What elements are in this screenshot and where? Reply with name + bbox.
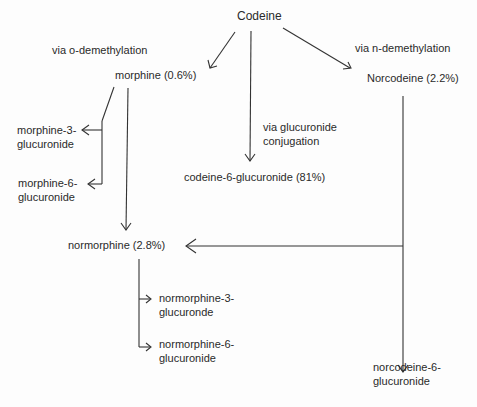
edge-label-glucuronide-conjugation-line2: conjugation: [263, 134, 337, 148]
edge-label-n-demethylation: via n-demethylation: [355, 41, 450, 55]
node-morphine-3-glucuronide-line2: glucuronide: [17, 137, 76, 151]
node-morphine: morphine (0.6%): [115, 68, 196, 82]
node-codeine: Codeine: [237, 9, 282, 23]
edge-morphine-normorphine: [121, 88, 131, 230]
edge-label-glucuronide-conjugation: via glucuronide conjugation: [263, 120, 337, 148]
node-morphine-6-glucuronide: morphine-6- glucuronide: [18, 176, 77, 204]
node-normorphine: normorphine (2.8%): [68, 238, 165, 252]
node-normorphine-3-glucuronide-line2: glucuronde: [159, 305, 234, 319]
node-normorphine-3-glucuronide-line1: normorphine-3-: [159, 291, 234, 305]
node-morphine-6-glucuronide-line1: morphine-6-: [18, 176, 77, 190]
edge-label-glucuronide-conjugation-line1: via glucuronide: [263, 120, 337, 134]
node-morphine-3-glucuronide-line1: morphine-3-: [17, 123, 76, 137]
edge-morphine-glucuronides: [82, 87, 114, 189]
node-norcodeine-6-glucuronide-line1: norcodeine-6-: [373, 360, 441, 374]
edge-normorphine-glucuronides: [139, 259, 151, 351]
edge-codeine-codeine6g: [245, 31, 255, 161]
node-codeine-6-glucuronide: codeine-6-glucuronide (81%): [184, 170, 325, 184]
node-normorphine-6-glucuronide: normorphine-6- glucuronide: [159, 337, 234, 365]
node-normorphine-6-glucuronide-line1: normorphine-6-: [159, 337, 234, 351]
node-normorphine-3-glucuronide: normorphine-3- glucuronde: [159, 291, 234, 319]
node-morphine-6-glucuronide-line2: glucuronide: [18, 190, 77, 204]
edge-codeine-morphine: [208, 32, 235, 68]
node-normorphine-6-glucuronide-line2: glucuronide: [159, 351, 234, 365]
node-norcodeine-6-glucuronide: norcodeine-6- glucuronide: [373, 360, 441, 388]
node-norcodeine: Norcodeine (2.2%): [367, 71, 459, 85]
node-morphine-3-glucuronide: morphine-3- glucuronide: [17, 123, 76, 151]
edge-label-o-demethylation: via o-demethylation: [52, 43, 147, 57]
node-norcodeine-6-glucuronide-line2: glucuronide: [373, 374, 441, 388]
edge-codeine-norcodeine: [283, 28, 351, 69]
metabolism-diagram: Codeine via o-demethylation via n-demeth…: [0, 0, 477, 407]
